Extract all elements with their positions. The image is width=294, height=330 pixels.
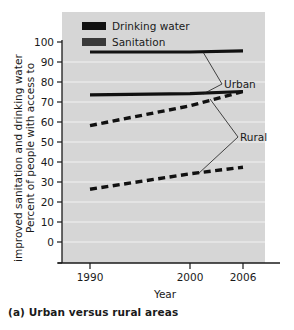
figure-panel: 100 90 80 70 60 50 40 30 20 10 0 1990 20…: [0, 0, 294, 330]
x-tick-label: 2000: [177, 271, 204, 283]
y-tick-label: 90: [41, 56, 54, 68]
series-line-urban-drinking-water: [90, 51, 243, 52]
x-axis-tick-labels: 1990 2000 2006: [77, 271, 257, 283]
y-tick-label: 70: [41, 96, 54, 108]
figure-caption: (a) Urban versus rural areas: [8, 306, 178, 318]
line-chart: 100 90 80 70 60 50 40 30 20 10 0 1990 20…: [0, 0, 294, 330]
y-tick-label: 100: [34, 36, 54, 48]
legend-swatch-drinking-water: [82, 22, 106, 30]
x-tick-label: 2006: [230, 271, 257, 283]
y-tick-label: 10: [41, 216, 54, 228]
y-tick-label: 40: [41, 156, 54, 168]
y-axis-title-line2: improved sanitation and drinking water: [12, 54, 24, 262]
y-axis-tick-labels: 100 90 80 70 60 50 40 30 20 10 0: [34, 36, 54, 248]
legend-label-sanitation: Sanitation: [112, 36, 165, 48]
x-axis-ticks: [90, 263, 243, 269]
y-tick-label: 20: [41, 196, 54, 208]
y-tick-label: 30: [41, 176, 54, 188]
y-tick-label: 50: [41, 136, 54, 148]
y-tick-label: 80: [41, 76, 54, 88]
legend-label-drinking-water: Drinking water: [112, 20, 190, 32]
x-tick-label: 1990: [77, 271, 104, 283]
y-tick-label: 0: [47, 236, 54, 248]
annotation-urban: Urban: [224, 78, 256, 90]
y-axis-ticks: [57, 42, 62, 263]
legend-swatch-sanitation: [82, 38, 106, 46]
y-tick-label: 60: [41, 116, 54, 128]
x-axis-title: Year: [153, 288, 177, 300]
annotation-rural: Rural: [240, 131, 267, 143]
y-axis-title-line1: Percent of people with access to: [24, 63, 36, 233]
